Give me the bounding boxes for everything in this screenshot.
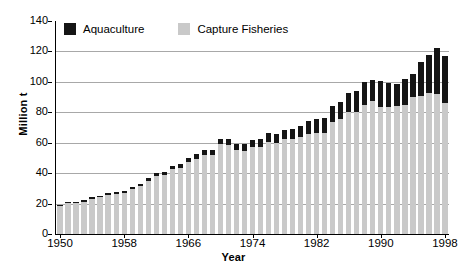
bar xyxy=(234,144,239,234)
bar-segment-capture-fisheries xyxy=(346,112,351,234)
bar-segment-aquaculture xyxy=(274,134,279,143)
legend-item: Capture Fisheries xyxy=(178,23,288,35)
y-tick-mark xyxy=(48,112,52,113)
bar-segment-aquaculture xyxy=(65,202,70,203)
bar xyxy=(186,158,191,234)
bar-segment-capture-fisheries xyxy=(314,133,319,234)
bar-segment-aquaculture xyxy=(210,150,215,155)
bar-segment-aquaculture xyxy=(322,118,327,133)
bar xyxy=(306,121,311,234)
bar xyxy=(146,178,151,234)
bar-segment-aquaculture xyxy=(146,178,151,181)
bar xyxy=(322,118,327,234)
chart-legend: AquacultureCapture Fisheries xyxy=(64,21,288,37)
bar-segment-aquaculture xyxy=(402,79,407,104)
bar-segment-aquaculture xyxy=(202,150,207,155)
bar-segment-aquaculture xyxy=(386,83,391,107)
bar xyxy=(218,139,223,234)
bar-segment-capture-fisheries xyxy=(386,107,391,234)
bar-segment-aquaculture xyxy=(354,91,359,112)
y-tick-mark xyxy=(48,173,52,174)
bar-segment-capture-fisheries xyxy=(266,142,271,235)
bar xyxy=(266,133,271,234)
bar-segment-aquaculture xyxy=(154,173,159,176)
legend-swatch-capture xyxy=(178,23,190,35)
bar xyxy=(386,83,391,234)
legend-item: Aquaculture xyxy=(64,23,144,35)
bar-segment-aquaculture xyxy=(130,187,135,189)
bar-segment-aquaculture xyxy=(426,55,431,93)
bar-segment-aquaculture xyxy=(282,130,287,139)
bar-segment-capture-fisheries xyxy=(81,202,86,234)
bar-segment-capture-fisheries xyxy=(57,206,62,234)
bar-segment-capture-fisheries xyxy=(170,169,175,234)
bar xyxy=(330,106,335,234)
bar xyxy=(105,193,110,234)
y-tick-mark xyxy=(48,234,52,235)
bar-segment-aquaculture xyxy=(410,74,415,97)
bar-segment-aquaculture xyxy=(418,62,423,96)
y-tick-mark xyxy=(48,51,52,52)
bar xyxy=(122,191,127,235)
y-tick-mark xyxy=(48,82,52,83)
bar xyxy=(346,93,351,234)
bar-segment-capture-fisheries xyxy=(306,134,311,234)
bar-segment-aquaculture xyxy=(226,139,231,145)
bar-segment-aquaculture xyxy=(250,140,255,147)
bar xyxy=(154,173,159,234)
bar-segment-capture-fisheries xyxy=(418,96,423,234)
bar xyxy=(314,119,319,234)
y-tick-label: 100 xyxy=(22,76,48,87)
bar-segment-aquaculture xyxy=(298,126,303,137)
bar xyxy=(274,134,279,234)
x-tick-mark xyxy=(188,235,189,238)
bar-segment-capture-fisheries xyxy=(250,147,255,234)
bar-segment-aquaculture xyxy=(162,172,167,175)
legend-swatch-aqua xyxy=(64,23,76,35)
bar xyxy=(202,150,207,234)
bar-segment-capture-fisheries xyxy=(370,101,375,234)
bar-segment-capture-fisheries xyxy=(202,155,207,234)
bar-segment-aquaculture xyxy=(330,106,335,122)
bar-segment-aquaculture xyxy=(89,197,94,199)
x-tick-label: 1966 xyxy=(168,237,208,249)
bar-segment-capture-fisheries xyxy=(138,186,143,234)
bar-segment-capture-fisheries xyxy=(210,155,215,234)
x-axis-title: Year xyxy=(0,251,467,263)
plot-area xyxy=(56,21,449,234)
bar-segment-aquaculture xyxy=(114,192,119,194)
bar-segment-aquaculture xyxy=(186,158,191,162)
x-tick-label: 1974 xyxy=(233,237,273,249)
bar-segment-aquaculture xyxy=(218,139,223,144)
bar-segment-aquaculture xyxy=(394,84,399,106)
bar-segment-capture-fisheries xyxy=(274,143,279,234)
bar-segment-capture-fisheries xyxy=(65,203,70,234)
bar-segment-aquaculture xyxy=(73,202,78,203)
bar-segment-aquaculture xyxy=(314,119,319,133)
x-tick-label: 1982 xyxy=(297,237,337,249)
x-tick-mark xyxy=(60,235,61,238)
y-tick-mark xyxy=(48,21,52,22)
bar-segment-capture-fisheries xyxy=(73,203,78,234)
bar xyxy=(138,184,143,234)
bar xyxy=(442,56,447,234)
bar-segment-capture-fisheries xyxy=(354,112,359,234)
bar-segment-capture-fisheries xyxy=(218,144,223,234)
bar xyxy=(81,200,86,234)
legend-label: Capture Fisheries xyxy=(197,23,288,35)
bar xyxy=(114,192,119,234)
bar xyxy=(418,62,423,234)
bar-segment-capture-fisheries xyxy=(410,97,415,234)
gridline xyxy=(56,51,449,52)
bar xyxy=(57,205,62,234)
bar xyxy=(178,164,183,234)
bar xyxy=(362,82,367,234)
bar xyxy=(194,154,199,234)
bar-segment-aquaculture xyxy=(338,102,343,119)
bar xyxy=(402,79,407,234)
bar-segment-aquaculture xyxy=(97,196,102,198)
bar-segment-capture-fisheries xyxy=(146,181,151,234)
bar-segment-capture-fisheries xyxy=(338,119,343,234)
y-tick-label: 60 xyxy=(22,137,48,148)
bar-segment-capture-fisheries xyxy=(442,103,447,234)
